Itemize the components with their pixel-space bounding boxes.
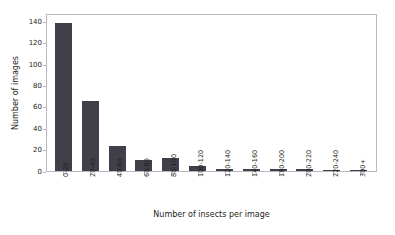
bar-slot — [157, 15, 184, 171]
x-tick: 100-120 — [184, 172, 211, 212]
x-tick: 80-100 — [157, 172, 184, 212]
bar-slot — [130, 15, 157, 171]
bar-slot — [211, 15, 238, 171]
bar-slot — [291, 15, 318, 171]
x-tick-label: 140-160 — [252, 150, 259, 177]
bar-slot — [184, 15, 211, 171]
bar-series — [47, 15, 376, 171]
x-tick-label: 120-140 — [225, 150, 232, 177]
x-tick: 220-240 — [319, 172, 346, 212]
x-tick-label: 20-40 — [90, 158, 97, 177]
x-tick: 20-40 — [76, 172, 103, 212]
x-tick-label: 180-200 — [279, 150, 286, 177]
x-tick-label: 300+ — [360, 159, 367, 177]
y-axis-title: Number of images — [9, 14, 23, 172]
bar-slot — [104, 15, 131, 171]
x-tick: 60-80 — [130, 172, 157, 212]
x-axis-ticks: 0-2020-4040-6060-8080-100100-120120-1401… — [46, 172, 377, 212]
x-tick-label: 60-80 — [144, 158, 151, 177]
bar-slot — [318, 15, 345, 171]
plot-area — [46, 14, 377, 172]
bar-slot — [238, 15, 265, 171]
x-tick: 40-60 — [103, 172, 130, 212]
x-tick: 120-140 — [211, 172, 238, 212]
x-tick-label: 200-220 — [306, 150, 313, 177]
bar-slot — [77, 15, 104, 171]
x-tick-label: 0-20 — [63, 162, 70, 177]
x-tick: 300+ — [346, 172, 373, 212]
x-tick-label: 80-100 — [171, 154, 178, 177]
x-tick: 180-200 — [265, 172, 292, 212]
x-tick: 140-160 — [238, 172, 265, 212]
x-axis-title: Number of insects per image — [46, 210, 377, 219]
histogram-figure: 020406080100120140 0-2020-4040-6060-8080… — [0, 0, 395, 235]
y-axis-ticks: 020406080100120140 — [0, 14, 46, 172]
x-tick-label: 100-120 — [198, 150, 205, 177]
bar-slot — [345, 15, 372, 171]
x-tick-label: 220-240 — [333, 150, 340, 177]
x-tick: 200-220 — [292, 172, 319, 212]
x-tick-label: 40-60 — [117, 158, 124, 177]
bar-slot — [50, 15, 77, 171]
bar-slot — [265, 15, 292, 171]
bar — [55, 23, 72, 171]
x-tick: 0-20 — [49, 172, 76, 212]
